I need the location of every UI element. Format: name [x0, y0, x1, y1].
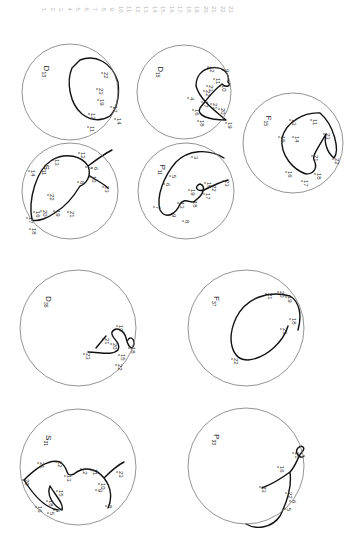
hour-marker-label: 21	[69, 211, 75, 218]
hour-marker-label: 23	[325, 133, 331, 140]
hour-marker-dot	[225, 122, 226, 123]
path-D35	[88, 329, 134, 353]
hour-marker-label: 13	[291, 119, 297, 126]
hour-marker-dot	[96, 88, 97, 89]
hour-marker-dot	[285, 171, 286, 172]
hour-marker-dot	[88, 113, 89, 114]
hour-marker-label: 5	[171, 175, 177, 179]
plot-S31: S3156891011121315161820212223	[20, 409, 136, 525]
hour-marker-label: 23	[85, 353, 91, 360]
hour-marker-label: 23	[118, 471, 124, 478]
hour-marker-dot	[114, 118, 115, 119]
hour-marker-label: 19	[99, 99, 105, 106]
hour-marker-dot	[116, 325, 117, 326]
hour-marker-dot	[210, 103, 211, 104]
hour-marker-dot	[197, 120, 198, 121]
hour-marker-label: 23	[208, 85, 214, 92]
hour-marker-label: 10	[91, 176, 97, 183]
hour-marker-label: 17	[205, 193, 211, 200]
plot-P11: P1135678913161718192223	[138, 143, 234, 239]
hour-marker-dot	[332, 158, 333, 159]
hour-marker-dot	[101, 72, 102, 73]
plot-title: D13	[41, 66, 51, 78]
hour-marker-dot	[37, 462, 38, 463]
hour-marker-dot	[204, 182, 205, 183]
hour-marker-label: 16	[35, 211, 41, 218]
plot-D35: D3515181920212223	[20, 270, 136, 386]
hour-marker-dot	[323, 133, 324, 134]
hour-marker-label: 15	[120, 354, 126, 361]
hour-marker-label: 21	[294, 452, 300, 459]
hour-marker-dot	[277, 291, 278, 292]
hour-marker-dot	[188, 189, 189, 190]
hour-marker-dot	[289, 119, 290, 120]
hour-marker-dot	[311, 155, 312, 156]
hour-marker-label: 12	[209, 66, 215, 73]
hour-marker-label: 13	[179, 202, 185, 209]
hour-marker-label: 22	[117, 364, 123, 371]
plot-title: D35	[43, 296, 53, 308]
hour-marker-label: 5	[286, 508, 292, 512]
hour-marker-dot	[278, 136, 279, 137]
hour-marker-dot	[29, 228, 30, 229]
hour-marker-label: 18	[316, 173, 322, 180]
hour-marker-dot	[83, 353, 84, 354]
hour-marker-dot	[289, 318, 290, 319]
hour-marker-label: 21	[313, 155, 319, 162]
hour-marker-label: 16	[287, 171, 293, 178]
path-F15	[282, 113, 337, 174]
hour-marker-dot	[169, 175, 170, 176]
hour-marker-dot	[85, 166, 86, 167]
hour-marker-dot	[209, 185, 210, 186]
hour-marker-dot	[28, 170, 29, 171]
hour-marker-dot	[67, 211, 68, 212]
hour-marker-label: 17	[112, 106, 118, 113]
hour-marker-label: 13	[54, 159, 60, 166]
hour-marker-dot	[56, 490, 57, 491]
hour-marker-label: 18	[199, 120, 205, 127]
hour-marker-label: 22	[103, 72, 109, 79]
hour-marker-dot	[55, 461, 56, 462]
hour-marker-dot	[280, 328, 281, 329]
hour-marker-dot	[90, 469, 91, 470]
hour-marker-dot	[285, 492, 286, 493]
hour-marker-label: 22	[57, 461, 63, 468]
plot-boundary-circle	[22, 143, 118, 239]
hour-marker-label: 19	[55, 210, 61, 217]
hour-marker-dot	[206, 85, 207, 86]
hour-marker-label: 18	[291, 318, 297, 325]
hour-marker-dot	[207, 66, 208, 67]
hour-marker-dot	[169, 214, 170, 215]
hour-marker-label: 22	[233, 358, 239, 365]
hour-marker-label: 13	[66, 475, 72, 482]
hour-marker-dot	[222, 69, 223, 70]
hour-marker-label: 20	[42, 210, 48, 217]
hour-marker-dot	[192, 109, 193, 110]
hour-marker-label: 19	[190, 189, 196, 196]
hour-marker-label: 23	[261, 486, 267, 493]
hour-marker-label: 17	[28, 217, 34, 224]
hour-marker-dot	[265, 293, 266, 294]
hour-marker-label: 21	[39, 462, 45, 469]
hour-marker-label: 11	[92, 469, 98, 476]
path-S31	[24, 461, 124, 510]
hour-marker-label: 17	[203, 101, 209, 108]
plot-title: S11	[41, 165, 51, 176]
hour-marker-label: 12	[80, 152, 86, 159]
hour-marker-label: 23	[98, 88, 104, 95]
hour-marker-label: 18	[48, 500, 54, 507]
plot-title: P33	[211, 434, 221, 445]
hour-marker-dot	[98, 483, 99, 484]
hour-marker-dot	[116, 471, 117, 472]
hour-marker-dot	[231, 358, 232, 359]
plot-boundary-circle	[188, 408, 304, 524]
hour-marker-dot	[97, 99, 98, 100]
hour-marker-dot	[26, 217, 27, 218]
hour-marker-dot	[190, 201, 191, 202]
path-F37	[231, 294, 300, 360]
hour-marker-dot	[53, 509, 54, 510]
hour-marker-dot	[64, 475, 65, 476]
hour-marker-dot	[292, 452, 293, 453]
hour-marker-dot	[213, 78, 214, 79]
hour-marker-label: 16	[279, 466, 285, 473]
